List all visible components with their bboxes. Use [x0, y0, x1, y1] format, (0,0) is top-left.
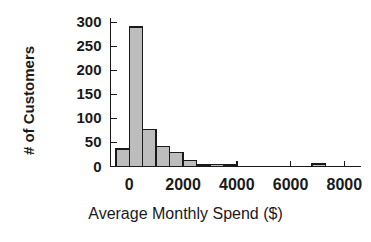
x-axis-title: Average Monthly Spend ($) — [0, 205, 371, 223]
y-axis-tick-label: 100 — [58, 110, 102, 125]
y-axis-tick-label: 150 — [58, 86, 102, 101]
x-axis-tick-label: 8000 — [309, 177, 371, 193]
histogram-bar — [170, 153, 183, 167]
y-axis-tick-label: 50 — [58, 134, 102, 149]
histogram-bar — [129, 27, 142, 166]
histogram-bar — [143, 129, 156, 166]
histogram-figure: # of Customers Average Monthly Spend ($)… — [0, 0, 371, 242]
y-axis-tick-label: 300 — [58, 14, 102, 29]
histogram-bar — [116, 149, 129, 166]
y-axis-tick-label: 250 — [58, 38, 102, 53]
y-axis-tick-label: 200 — [58, 62, 102, 77]
bars-group — [116, 27, 326, 166]
histogram-bar — [183, 161, 196, 167]
histogram-bar — [156, 147, 169, 167]
y-axis-title: # of Customers — [20, 21, 37, 181]
y-axis-tick-label: 0 — [58, 159, 102, 174]
